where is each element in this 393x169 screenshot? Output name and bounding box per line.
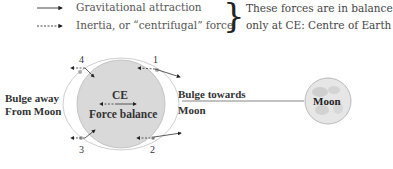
- point-label-1: 1: [153, 54, 158, 65]
- legend-inertia-label: Inertia, or “centrifugal” force: [76, 19, 233, 31]
- bulge-towards-line2: Moon: [178, 104, 206, 117]
- legend-gravity-label: Gravitational attraction: [76, 1, 202, 13]
- balance-note-line1: These forces are in balance: [246, 2, 393, 15]
- bulge-away-line2: From Moon: [5, 105, 61, 118]
- ce-label: CE: [112, 89, 128, 102]
- moon-label: Moon: [313, 95, 341, 108]
- bulge-towards-line1: Bulge towards: [178, 88, 246, 101]
- force-balance-label: Force balance: [89, 108, 157, 121]
- point-label-2: 2: [150, 144, 155, 155]
- brace-icon: }: [223, 0, 245, 32]
- balance-note-line2: only at CE: Centre of Earth: [246, 19, 391, 32]
- point-label-4: 4: [79, 54, 84, 65]
- point-label-3: 3: [79, 144, 84, 155]
- bulge-away-line1: Bulge away: [5, 92, 59, 105]
- point2-gravity-arrow-icon: [154, 133, 181, 137]
